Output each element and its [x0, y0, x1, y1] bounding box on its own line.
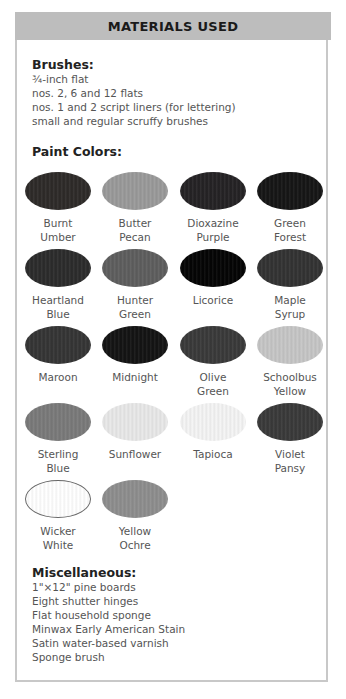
- swatch-label: HunterGreen: [98, 293, 172, 321]
- swatch-label-line2: Blue: [21, 461, 95, 475]
- color-oval: [25, 403, 91, 441]
- swatch-label-line1: Maple: [253, 293, 327, 307]
- swatch-label-line2: Ochre: [98, 538, 172, 552]
- swatch-label-line1: Sunflower: [98, 447, 172, 461]
- swatch-label-line2: Syrup: [253, 307, 327, 321]
- swatch-label-line2: Green: [176, 384, 250, 398]
- paint-swatch: GreenForest: [253, 172, 327, 244]
- swatch-label-line1: Wicker: [21, 524, 95, 538]
- paint-swatch: Licorice: [176, 249, 250, 307]
- color-oval: [257, 326, 323, 364]
- paint-swatch: DioxazinePurple: [176, 172, 250, 244]
- swatch-label-line1: Licorice: [176, 293, 250, 307]
- paint-swatch: SterlingBlue: [21, 403, 95, 475]
- swatch-label: BurntUmber: [21, 216, 95, 244]
- brushes-heading: Brushes:: [32, 57, 94, 72]
- swatch-label: GreenForest: [253, 216, 327, 244]
- brush-item: nos. 2, 6 and 12 flats: [32, 86, 236, 100]
- misc-item: Sponge brush: [32, 650, 185, 664]
- paint-swatch: OliveGreen: [176, 326, 250, 398]
- swatch-label-line2: Green: [98, 307, 172, 321]
- misc-item: Satin water-based varnish: [32, 636, 185, 650]
- color-oval: [257, 172, 323, 210]
- color-oval: [25, 480, 91, 518]
- swatch-label-line1: Green: [253, 216, 327, 230]
- swatch-label-line1: Dioxazine: [176, 216, 250, 230]
- swatch-label: Maroon: [21, 370, 95, 384]
- swatch-label-line2: Yellow: [253, 384, 327, 398]
- paint-swatch: VioletPansy: [253, 403, 327, 475]
- swatch-label-line1: Midnight: [98, 370, 172, 384]
- swatch-label: Midnight: [98, 370, 172, 384]
- color-oval: [25, 249, 91, 287]
- paint-swatch: YellowOchre: [98, 480, 172, 552]
- misc-item: Eight shutter hinges: [32, 594, 185, 608]
- brushes-list: ¾-inch flat nos. 2, 6 and 12 flats nos. …: [32, 72, 236, 128]
- swatch-label: YellowOchre: [98, 524, 172, 552]
- swatch-label-line2: Pansy: [253, 461, 327, 475]
- color-oval: [102, 403, 168, 441]
- paint-swatch: SchoolbusYellow: [253, 326, 327, 398]
- brush-item: small and regular scruffy brushes: [32, 114, 236, 128]
- swatch-label: HeartlandBlue: [21, 293, 95, 321]
- paint-swatch: Maroon: [21, 326, 95, 384]
- swatch-label-line1: Olive: [176, 370, 250, 384]
- paint-swatch: Sunflower: [98, 403, 172, 461]
- panel-title: MATERIALS USED: [108, 19, 239, 34]
- swatch-label: MapleSyrup: [253, 293, 327, 321]
- swatch-label-line2: Umber: [21, 230, 95, 244]
- swatch-label-line1: Heartland: [21, 293, 95, 307]
- swatch-label: Sunflower: [98, 447, 172, 461]
- color-oval: [102, 326, 168, 364]
- miscellaneous-list: 1"×12" pine boards Eight shutter hinges …: [32, 580, 185, 664]
- color-oval: [102, 480, 168, 518]
- miscellaneous-heading: Miscellaneous:: [32, 565, 136, 580]
- swatch-label-line1: Maroon: [21, 370, 95, 384]
- swatch-label: OliveGreen: [176, 370, 250, 398]
- color-oval: [25, 172, 91, 210]
- swatch-label: VioletPansy: [253, 447, 327, 475]
- swatch-label: Licorice: [176, 293, 250, 307]
- swatch-label-line1: Yellow: [98, 524, 172, 538]
- color-oval: [257, 249, 323, 287]
- swatch-label-line1: Sterling: [21, 447, 95, 461]
- color-oval: [102, 172, 168, 210]
- paint-swatch: Tapioca: [176, 403, 250, 461]
- swatch-label-line1: Tapioca: [176, 447, 250, 461]
- misc-item: Minwax Early American Stain: [32, 622, 185, 636]
- misc-item: 1"×12" pine boards: [32, 580, 185, 594]
- swatch-label-line1: Hunter: [98, 293, 172, 307]
- swatch-label: Tapioca: [176, 447, 250, 461]
- panel-header: MATERIALS USED: [15, 12, 331, 40]
- swatch-label-line1: Butter: [98, 216, 172, 230]
- color-oval: [102, 249, 168, 287]
- color-oval: [180, 172, 246, 210]
- paint-colors-heading: Paint Colors:: [32, 144, 122, 159]
- swatch-label: SchoolbusYellow: [253, 370, 327, 398]
- swatch-label: SterlingBlue: [21, 447, 95, 475]
- paint-swatch: HunterGreen: [98, 249, 172, 321]
- swatch-label-line2: White: [21, 538, 95, 552]
- swatch-label-line2: Pecan: [98, 230, 172, 244]
- color-oval: [180, 249, 246, 287]
- color-oval: [257, 403, 323, 441]
- paint-swatch: ButterPecan: [98, 172, 172, 244]
- color-oval: [180, 403, 246, 441]
- brush-item: nos. 1 and 2 script liners (for letterin…: [32, 100, 236, 114]
- brush-item: ¾-inch flat: [32, 72, 236, 86]
- swatch-label-line1: Burnt: [21, 216, 95, 230]
- swatch-label-line2: Forest: [253, 230, 327, 244]
- swatch-label: DioxazinePurple: [176, 216, 250, 244]
- color-oval: [180, 326, 246, 364]
- misc-item: Flat household sponge: [32, 608, 185, 622]
- paint-swatch: MapleSyrup: [253, 249, 327, 321]
- swatch-label-line1: Violet: [253, 447, 327, 461]
- paint-swatch: BurntUmber: [21, 172, 95, 244]
- swatch-label-line2: Purple: [176, 230, 250, 244]
- swatch-label-line2: Blue: [21, 307, 95, 321]
- swatch-label: ButterPecan: [98, 216, 172, 244]
- paint-swatch: HeartlandBlue: [21, 249, 95, 321]
- swatch-label: WickerWhite: [21, 524, 95, 552]
- color-oval: [25, 326, 91, 364]
- swatch-label-line1: Schoolbus: [253, 370, 327, 384]
